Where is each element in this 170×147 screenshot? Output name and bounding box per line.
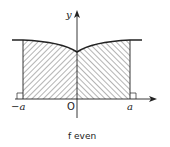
shaded-area-right	[77, 40, 130, 99]
right-right-angle-marker	[130, 93, 136, 99]
left-bound-label: −a	[11, 101, 25, 112]
y-axis-label: y	[65, 9, 72, 20]
left-right-angle-marker	[17, 93, 23, 99]
shaded-area-left	[23, 40, 77, 99]
even-function-diagram: y −a O a f even	[0, 0, 170, 147]
figure-caption: f even	[68, 131, 96, 141]
origin-label: O	[67, 101, 75, 112]
right-bound-label: a	[127, 101, 133, 112]
